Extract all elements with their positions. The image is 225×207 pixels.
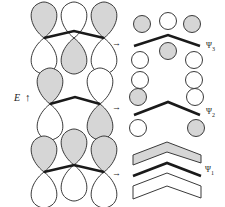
psi3-right-orbitals xyxy=(132,13,203,69)
psi2-right-orbitals xyxy=(130,72,205,137)
row-psi2: → Ψ 2 xyxy=(37,68,215,140)
lobe-shaded xyxy=(37,68,63,104)
lobe-shaded xyxy=(31,136,57,172)
merged-lobe-white xyxy=(133,173,201,199)
transform-arrow-icon: → xyxy=(112,102,121,112)
psi-subscript: 2 xyxy=(212,112,215,118)
merged-lobe-shaded xyxy=(133,142,201,165)
orbital-label-psi3: Ψ 3 xyxy=(206,41,215,52)
lobe-white xyxy=(130,120,147,137)
mo-diagram: E ↑ → xyxy=(0,0,225,207)
lobe-shaded xyxy=(130,89,147,106)
lobe-shaded xyxy=(134,16,151,33)
transform-arrow-icon: → xyxy=(112,168,121,178)
lobe-white xyxy=(186,52,203,69)
lobe-white-upper-left xyxy=(132,72,149,89)
up-arrow-icon: ↑ xyxy=(25,91,31,103)
psi-subscript: 1 xyxy=(211,170,214,176)
psi1-right-orbitals xyxy=(133,142,201,199)
row-psi1: → Ψ 1 xyxy=(31,129,214,207)
psi3-left-orbitals xyxy=(31,2,117,74)
energy-axis-label: E ↑ xyxy=(13,91,31,103)
row-psi3: → Ψ 3 xyxy=(31,2,215,74)
lobe-shaded xyxy=(31,2,57,38)
p-orbital-2 xyxy=(61,2,87,74)
lobe-white-upper-right xyxy=(186,72,203,89)
lobe-white xyxy=(132,52,149,69)
lobe-white xyxy=(31,172,57,207)
lobe-white xyxy=(87,68,113,104)
lobe-white xyxy=(160,13,177,30)
lobe-shaded xyxy=(188,120,205,137)
lobe-shaded xyxy=(61,129,87,165)
psi1-left-orbitals xyxy=(31,129,117,207)
lobe-shaded xyxy=(91,2,117,38)
lobe-shaded xyxy=(61,38,87,74)
orbital-label-psi1: Ψ 1 xyxy=(205,165,214,176)
energy-axis-letter: E xyxy=(13,92,20,103)
transform-arrow-icon: → xyxy=(112,38,121,48)
lobe-shaded xyxy=(87,104,113,140)
orbital-label-psi2: Ψ 2 xyxy=(206,107,215,118)
lobe-white xyxy=(187,89,204,106)
lobe-white xyxy=(61,165,87,201)
lobe-shaded xyxy=(91,136,117,172)
lobe-shaded xyxy=(184,16,201,33)
lobe-white xyxy=(37,104,63,140)
carbon-backbone xyxy=(50,97,100,104)
lobe-shaded xyxy=(160,43,177,60)
psi-subscript: 3 xyxy=(212,46,215,52)
